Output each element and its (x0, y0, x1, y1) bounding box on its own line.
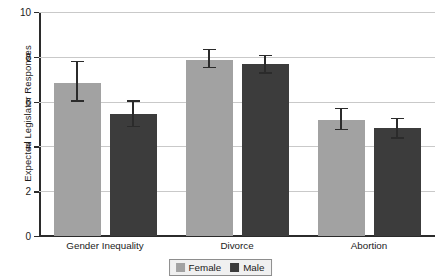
y-tick-label: 2 (25, 186, 31, 197)
error-bar-cap-bottom (127, 126, 140, 127)
bar-chart: Expected Legislator Responses 0246810 Ge… (0, 0, 441, 280)
error-bar-cap-bottom (391, 137, 404, 138)
error-bar-female-2 (318, 108, 365, 130)
error-bar-cap-top (335, 108, 348, 109)
y-tick-label: 6 (25, 96, 31, 107)
legend-swatch-female-icon (176, 263, 185, 272)
bar-female-1 (186, 60, 233, 237)
legend-swatch-male-icon (230, 263, 239, 272)
error-bar-cap-top (71, 61, 84, 62)
legend-item-male[interactable]: Male (230, 262, 264, 273)
x-axis-label-2: Abortion (351, 240, 388, 251)
legend-label-male: Male (243, 262, 264, 273)
bar-male-0 (110, 114, 157, 236)
error-bar-cap-bottom (335, 129, 348, 130)
error-bar-line (76, 61, 77, 102)
bar-male-2 (374, 128, 421, 236)
plot-area: 0246810 (39, 12, 435, 236)
y-tick-label: 10 (20, 7, 31, 18)
y-tick-label: 0 (25, 231, 31, 242)
x-axis-label-1: Divorce (220, 240, 253, 251)
y-tick-label: 4 (25, 141, 31, 152)
x-axis-label-0: Gender Inequality (66, 240, 143, 251)
error-bar-line (132, 100, 133, 127)
error-bar-male-0 (110, 100, 157, 127)
legend-item-female[interactable]: Female (176, 262, 222, 273)
error-bar-female-1 (186, 49, 233, 68)
error-bar-cap-bottom (259, 72, 272, 73)
error-bar-line (264, 55, 265, 74)
error-bar-male-1 (242, 55, 289, 74)
error-bar-line (396, 118, 397, 139)
y-tick-label: 8 (25, 51, 31, 62)
error-bar-cap-bottom (71, 100, 84, 101)
x-axis-category-labels: Gender InequalityDivorceAbortion (39, 240, 435, 256)
error-bar-cap-top (127, 100, 140, 101)
bar-female-0 (54, 83, 101, 236)
error-bar-male-2 (374, 118, 421, 139)
error-bar-line (208, 49, 209, 68)
error-bar-cap-top (203, 49, 216, 50)
error-bar-line (340, 108, 341, 130)
legend-label-female: Female (189, 262, 222, 273)
bar-male-1 (242, 64, 289, 236)
y-tick-mark (34, 236, 39, 237)
legend: Female Male (169, 259, 273, 276)
error-bar-female-0 (54, 61, 101, 102)
bar-groups (39, 12, 435, 236)
error-bar-cap-top (259, 55, 272, 56)
error-bar-cap-top (391, 118, 404, 119)
error-bar-cap-bottom (203, 67, 216, 68)
bar-female-2 (318, 120, 365, 236)
